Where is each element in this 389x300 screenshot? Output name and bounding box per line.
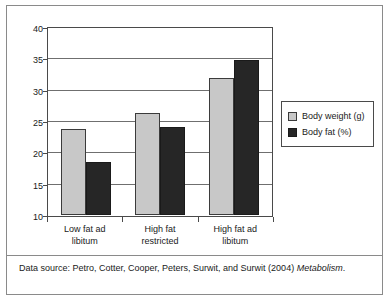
x-axis-tick-mark [47, 217, 48, 222]
y-axis-tick-label: 20 [33, 150, 43, 159]
x-axis-category-label: High fatrestricted [122, 224, 197, 247]
x-axis-tick-marks [47, 217, 273, 222]
y-axis-tick-label: 40 [33, 25, 43, 34]
gridline [48, 215, 272, 216]
y-axis-tick-label: 10 [33, 213, 43, 222]
x-axis-category-label-line: High fat ad [198, 224, 273, 236]
bar-body-weight [209, 78, 234, 215]
legend-item-label: Body fat (%) [302, 128, 352, 137]
x-axis-tick-mark [198, 217, 199, 222]
bar-group [197, 29, 271, 215]
bar-group [123, 29, 197, 215]
legend-swatch-icon [288, 128, 297, 137]
bar-body-fat [86, 162, 111, 215]
x-axis-tick-mark [273, 217, 274, 222]
caption-journal-name: Metabolism [297, 263, 343, 273]
y-axis-tick-label: 25 [33, 119, 43, 128]
legend-item[interactable]: Body fat (%) [288, 124, 365, 140]
x-axis-tick-mark [122, 217, 123, 222]
x-axis-category-label: High fat adlibitum [198, 224, 273, 247]
x-axis-category-labels: Low fat adlibitumHigh fatrestrictedHigh … [47, 224, 273, 247]
chart-legend: Body weight (g)Body fat (%) [281, 101, 374, 147]
bar-body-weight [61, 129, 86, 215]
bar-body-fat [234, 60, 259, 215]
caption-suffix-text: . [343, 263, 346, 273]
plot-area-wrapper [47, 27, 273, 217]
bar-body-weight [135, 113, 160, 215]
legend-swatch-icon [288, 112, 297, 121]
legend-item[interactable]: Body weight (g) [288, 108, 365, 124]
y-axis-tick-label: 30 [33, 87, 43, 96]
x-axis-category-label-line: Low fat ad [47, 224, 122, 236]
x-axis-category-label: Low fat adlibitum [47, 224, 122, 247]
plot-area [47, 27, 273, 217]
x-axis-category-label-line: libitum [47, 236, 122, 248]
y-axis-tick-label: 35 [33, 56, 43, 65]
bar-body-fat [160, 127, 185, 215]
y-axis-tick-label: 15 [33, 181, 43, 190]
bar-group [49, 29, 123, 215]
x-axis-category-label-line: High fat [122, 224, 197, 236]
data-source-caption: Data source: Petro, Cotter, Cooper, Pete… [19, 263, 345, 274]
caption-divider [7, 255, 382, 256]
figure-container: 10152025303540 Low fat adlibitumHigh fat… [0, 0, 389, 300]
bar-groups [49, 29, 271, 215]
x-axis-category-label-line: libitum [198, 236, 273, 248]
gridline [48, 27, 272, 28]
legend-item-label: Body weight (g) [302, 112, 365, 121]
x-axis-category-label-line: restricted [122, 236, 197, 248]
caption-prefix-text: Data source: Petro, Cotter, Cooper, Pete… [19, 263, 297, 273]
y-axis-tick-labels: 10152025303540 [23, 27, 43, 217]
